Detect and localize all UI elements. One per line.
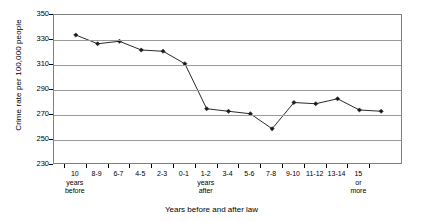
gridline	[54, 115, 401, 116]
y-tick-mark	[49, 39, 53, 40]
x-tick-label-line: 15	[336, 170, 380, 179]
x-tick-mark	[151, 164, 152, 168]
y-tick-label: 230	[25, 160, 49, 168]
x-tick-mark	[369, 164, 370, 168]
data-point	[96, 42, 100, 46]
data-point	[74, 33, 78, 37]
y-tick-mark	[49, 139, 53, 140]
y-tick-label: 350	[25, 10, 49, 18]
x-tick-mark	[217, 164, 218, 168]
y-tick-mark	[49, 14, 53, 15]
x-axis-tick-labels: 10yearsbefore8-96-74-52-30-11-2yearsafte…	[0, 170, 423, 204]
x-tick-mark	[238, 164, 239, 168]
y-tick-label: 270	[25, 110, 49, 118]
y-tick-mark	[49, 114, 53, 115]
x-tick-mark	[64, 164, 65, 168]
y-tick-label: 310	[25, 60, 49, 68]
y-tick-mark	[49, 64, 53, 65]
data-point	[205, 107, 209, 111]
x-tick-mark	[129, 164, 130, 168]
data-point	[226, 109, 230, 113]
x-tick-label-line: more	[336, 187, 380, 196]
y-tick-mark	[49, 164, 53, 165]
x-tick-mark	[260, 164, 261, 168]
data-point	[335, 97, 339, 101]
x-tick-mark	[173, 164, 174, 168]
crime-rate-line-chart: Crime rate per 100,000 people 3503303102…	[0, 0, 423, 222]
x-tick-label-line: years	[184, 179, 228, 188]
x-tick-label: 15ormore	[336, 170, 380, 196]
x-tick-mark	[108, 164, 109, 168]
gridline	[54, 65, 401, 66]
x-tick-label-line: or	[336, 179, 380, 188]
x-tick-mark	[326, 164, 327, 168]
x-tick-mark	[86, 164, 87, 168]
x-tick-mark	[347, 164, 348, 168]
data-point	[379, 109, 383, 113]
y-tick-label: 250	[25, 135, 49, 143]
gridline	[54, 140, 401, 141]
data-point	[314, 102, 318, 106]
plot-area	[53, 14, 402, 164]
x-tick-mark	[304, 164, 305, 168]
x-tick-label-line: after	[184, 187, 228, 196]
gridline	[54, 40, 401, 41]
x-tick-mark	[195, 164, 196, 168]
y-tick-mark	[49, 89, 53, 90]
data-point	[161, 49, 165, 53]
data-point	[357, 108, 361, 112]
data-point	[139, 48, 143, 52]
gridline	[54, 90, 401, 91]
y-tick-label: 330	[25, 35, 49, 43]
y-tick-label: 290	[25, 85, 49, 93]
x-tick-mark	[282, 164, 283, 168]
x-axis-title: Years before and after law	[0, 205, 423, 214]
x-tick-label-line: years	[53, 179, 97, 188]
x-tick-label-line: before	[53, 187, 97, 196]
